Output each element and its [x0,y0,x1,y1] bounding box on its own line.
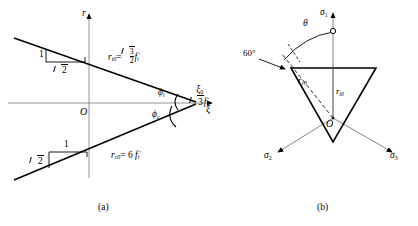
caption-a: (a) [98,203,109,213]
xi0-subscript: 0 [200,89,203,95]
rc0-equals: = 6 [120,150,132,160]
slope-upper-rise: 1 [39,50,44,60]
phi-t-subscript: t [163,92,165,98]
xi0-radicand: 3 [197,95,204,108]
rt0-radius-subscript: t0 [340,91,344,97]
angle-label-compressive: ϕc [152,110,160,121]
xi0-top: ξ0 [190,84,209,95]
sigma3-subscript: 3 [395,155,398,161]
tensile-meridian-line [14,38,196,102]
angle-label-tensile: ϕt [158,88,165,99]
rc0-strength-prime: ′ [139,149,140,156]
compressive-direction-line [282,54,333,118]
rt0-radius-label: rt0 [336,87,344,97]
apex-label: ξ0 3ft′ [190,84,209,108]
theta-arc [284,32,333,60]
sigma2-label: σ2 [264,151,272,162]
angle-arc-compressive [170,106,176,127]
r-axis-label: r [82,8,86,18]
slope-upper-radicand: 2 [61,64,68,76]
origin-label-b: O [326,119,333,129]
origin-label-a: O [80,107,87,117]
xi0-sqrt: 3 [190,95,204,108]
xi0-strength-prime: ′ [208,96,209,103]
sigma3-label: σ3 [390,151,398,162]
sigma1-label: σ1 [320,8,328,19]
compressive-meridian-label: rc0= 6 ft′ [111,150,141,161]
rt0-frac-num: 3 [130,48,134,56]
theta-label: θ [303,19,308,29]
rc0-radius-label: rc0 [298,76,307,86]
sixty-degree-leader [259,59,285,69]
slope-triangle-lower [49,152,87,168]
panel-b-geometry [259,13,392,152]
rt0-sqrt: 32 [122,46,135,65]
tensile-meridian-label: rt0=32ft′ [108,46,140,65]
slope-lower-radicand: 2 [37,155,44,167]
slope-lower-rise: 2 [30,155,44,167]
sixty-degree-label: 60° [243,49,256,58]
sigma1-subscript: 1 [325,12,328,18]
rc0-radius-subscript: c0 [302,80,307,86]
compressive-meridian-line [14,104,196,180]
xi0-bottom: 3ft′ [190,95,209,108]
slope-upper-run: 2 [54,64,68,76]
phi-c-subscript: c [157,114,160,120]
slope-lower-run: 1 [64,140,69,150]
angle-arc-tensile [175,94,178,110]
figure-container: r ξ O rt0=32ft′ rc0= 6 ft′ ξ0 3ft′ ϕt ϕc… [0,0,418,226]
sigma2-subscript: 2 [269,155,272,161]
rt0-strength-prime: ′ [139,51,140,58]
rt0-frac-den: 2 [130,56,134,65]
sigma2-axis [278,118,333,152]
caption-b: (b) [317,203,328,213]
slope-lower-sqrt: 2 [30,155,44,167]
slope-upper-sqrt: 2 [54,64,68,76]
sigma3-axis [333,118,392,152]
stress-point-marker [330,28,335,33]
